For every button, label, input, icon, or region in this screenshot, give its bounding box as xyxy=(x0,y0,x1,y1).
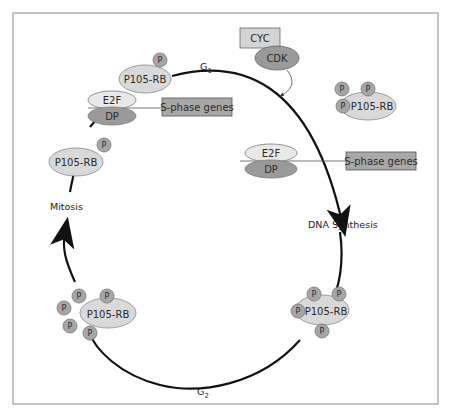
svg-text:P: P xyxy=(337,290,342,299)
svg-text:P105-RB: P105-RB xyxy=(124,74,167,85)
svg-text:P: P xyxy=(296,307,301,316)
svg-text:P: P xyxy=(340,85,345,94)
svg-text:G1: G1 xyxy=(200,61,212,75)
svg-text:P: P xyxy=(88,329,93,338)
svg-text:P: P xyxy=(320,327,325,336)
svg-text:E2F: E2F xyxy=(103,95,122,106)
rb-1p-left: P105-RB P xyxy=(49,138,111,176)
svg-text:P: P xyxy=(312,290,317,299)
svg-text:P: P xyxy=(158,56,163,65)
cell-cycle-diagram: G1 G2 DNA Synthesis Mitosis CYC CDK S-ph… xyxy=(0,0,449,418)
svg-text:P: P xyxy=(62,304,67,313)
free-rb-3p: P105-RB P P P xyxy=(335,82,396,120)
svg-text:P: P xyxy=(68,322,73,331)
rb-4p-bottom-right: P105-RB P P P P xyxy=(291,287,349,338)
svg-text:DP: DP xyxy=(264,164,278,175)
svg-text:DP: DP xyxy=(105,111,119,122)
dna-synthesis-label: DNA Synthesis xyxy=(308,219,378,230)
svg-text:E2F: E2F xyxy=(262,148,281,159)
svg-text:S-phase genes: S-phase genes xyxy=(344,156,418,167)
svg-text:P: P xyxy=(105,292,110,301)
g1-label: G1 xyxy=(200,61,212,75)
svg-text:P105-RB: P105-RB xyxy=(55,157,98,168)
svg-text:P: P xyxy=(77,292,82,301)
svg-text:CYC: CYC xyxy=(250,33,269,44)
svg-text:CDK: CDK xyxy=(266,53,288,64)
svg-text:P105-RB: P105-RB xyxy=(305,306,348,317)
cyc-cdk-complex: CYC CDK xyxy=(240,28,299,96)
svg-text:P: P xyxy=(341,102,346,111)
rb-e2f-dp-complex-g1: S-phase genes E2F DP P105-RB P xyxy=(88,53,234,125)
svg-text:S-phase genes: S-phase genes xyxy=(160,102,234,113)
rb-5p-bottom-left: P105-RB P P P P P xyxy=(57,289,136,340)
svg-text:P: P xyxy=(102,141,107,150)
svg-text:P105-RB: P105-RB xyxy=(351,101,394,112)
svg-text:P: P xyxy=(366,85,371,94)
cdk-action-arrow xyxy=(280,70,292,96)
svg-text:P105-RB: P105-RB xyxy=(87,309,130,320)
mitosis-label: Mitosis xyxy=(50,201,83,212)
